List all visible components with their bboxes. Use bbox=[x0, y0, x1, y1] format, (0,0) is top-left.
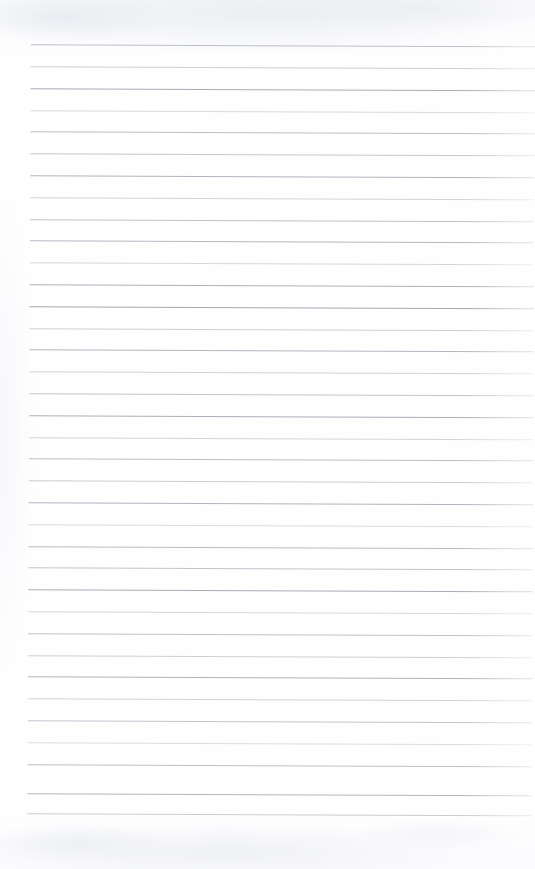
rule-line bbox=[28, 655, 532, 658]
rule-line bbox=[28, 764, 532, 767]
rule-line bbox=[28, 698, 532, 701]
ruled-lines-group bbox=[0, 0, 535, 869]
rule-line bbox=[29, 480, 533, 483]
rule-line bbox=[29, 393, 533, 396]
rule-line bbox=[29, 371, 533, 374]
rule-line bbox=[29, 458, 533, 461]
rule-line bbox=[29, 415, 533, 418]
rule-line bbox=[30, 284, 534, 287]
rule-line bbox=[31, 88, 535, 91]
rule-line bbox=[28, 676, 532, 679]
rule-line bbox=[28, 720, 532, 723]
rule-line bbox=[28, 589, 532, 592]
rule-line bbox=[31, 44, 535, 47]
rule-line bbox=[30, 262, 534, 265]
rule-line bbox=[30, 240, 534, 243]
rule-line bbox=[30, 110, 534, 113]
rule-line bbox=[29, 546, 533, 549]
rule-line bbox=[28, 742, 532, 745]
rule-line bbox=[30, 131, 534, 134]
rule-line bbox=[30, 328, 534, 331]
rule-line bbox=[29, 524, 533, 527]
rule-line bbox=[28, 633, 532, 636]
rule-line bbox=[29, 437, 533, 440]
rule-line bbox=[27, 793, 531, 796]
rule-line bbox=[30, 153, 534, 156]
rule-line bbox=[29, 349, 533, 352]
rule-line bbox=[27, 813, 531, 816]
rule-line bbox=[30, 175, 534, 178]
rule-line bbox=[30, 219, 534, 222]
rule-line bbox=[31, 66, 535, 69]
rule-line bbox=[30, 197, 534, 200]
scanned-notebook-page bbox=[0, 0, 535, 869]
rule-line bbox=[28, 611, 532, 614]
rule-line bbox=[29, 502, 533, 505]
rule-line bbox=[30, 306, 534, 309]
rule-line bbox=[28, 567, 532, 570]
